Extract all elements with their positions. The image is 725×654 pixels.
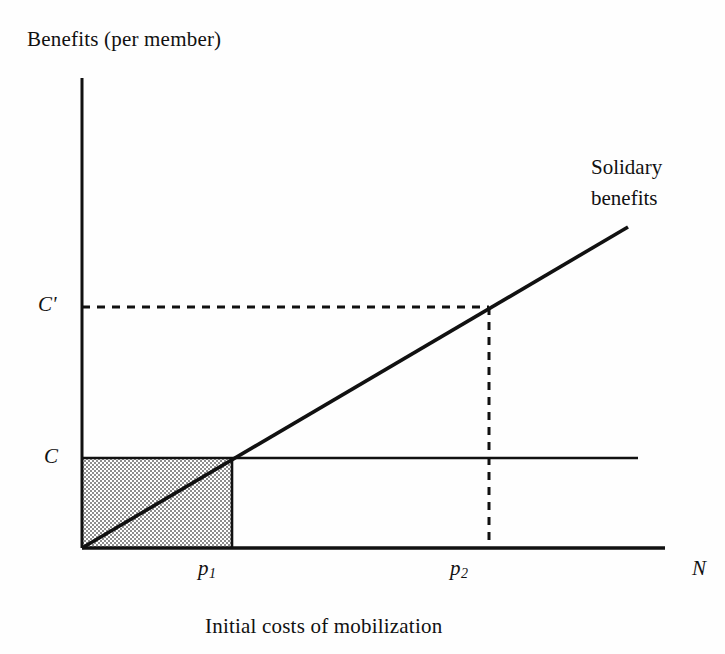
- x-axis-end-label-n: N: [692, 556, 706, 581]
- y-tick-label-c-prime: C': [38, 292, 57, 317]
- x-axis-caption: Initial costs of mobilization: [205, 614, 442, 639]
- x-tick-label-p1-base: p: [198, 556, 209, 580]
- x-tick-label-p1: p1: [198, 556, 216, 582]
- x-tick-label-p1-subscript: 1: [209, 566, 217, 581]
- y-tick-label-c: C: [44, 444, 58, 469]
- x-tick-label-p2: p2: [450, 556, 468, 582]
- plot-area: [0, 0, 725, 654]
- solidary-benefits-figure: Benefits (per member) Solidary benefits …: [0, 0, 725, 654]
- solidary-benefits-line: [82, 227, 628, 548]
- solidary-benefits-label: Solidary benefits: [591, 152, 662, 214]
- x-tick-label-p2-subscript: 2: [461, 566, 469, 581]
- x-tick-label-p2-base: p: [450, 556, 461, 580]
